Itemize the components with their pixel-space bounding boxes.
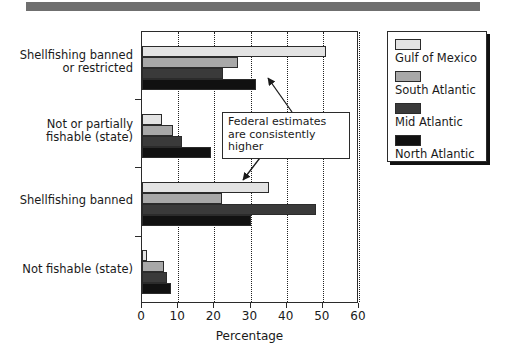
legend-item-south-atlantic[interactable]: South Atlantic: [395, 71, 483, 97]
category-label-line: fishable (state): [0, 131, 133, 144]
bar-not-or-partially-fishable-state-mid-atlantic: [142, 136, 182, 147]
gridline: [287, 32, 288, 302]
legend-item-mid-atlantic[interactable]: Mid Atlantic: [395, 103, 483, 129]
gridline: [359, 32, 360, 302]
bar-shellfishing-banned-north-atlantic: [142, 215, 251, 226]
gridline: [323, 32, 324, 302]
category-label-not-fishable-state: Not fishable (state): [0, 263, 133, 276]
x-axis-tick: [213, 303, 214, 308]
gridline: [251, 32, 252, 302]
bar-shellfishing-banned-south-atlantic: [142, 193, 222, 204]
legend-label: Gulf of Mexico: [395, 51, 483, 65]
bar-shellfishing-banned-or-restricted-gulf-of-mexico: [142, 46, 326, 57]
x-axis-title: Percentage: [141, 329, 358, 343]
x-axis-tick: [177, 303, 178, 308]
x-axis-tick: [358, 303, 359, 308]
x-axis-tick-label: 30: [230, 309, 270, 323]
legend-label: South Atlantic: [395, 83, 483, 97]
annotation-callout: Federal estimates are consistently highe…: [222, 112, 350, 159]
bar-not-or-partially-fishable-state-south-atlantic: [142, 125, 173, 136]
bar-shellfishing-banned-gulf-of-mexico: [142, 182, 269, 193]
plot-inner: [142, 32, 357, 302]
swatch-gulf-of-mexico-icon: [395, 39, 421, 50]
x-axis-tick-label: 0: [121, 309, 161, 323]
legend-label: Mid Atlantic: [395, 115, 483, 129]
legend-label: North Atlantic: [395, 147, 483, 161]
bar-shellfishing-banned-or-restricted-mid-atlantic: [142, 68, 223, 79]
bar-not-or-partially-fishable-state-gulf-of-mexico: [142, 114, 162, 125]
annotation-line-1: Federal estimates: [228, 116, 344, 129]
category-label-line: or restricted: [0, 62, 133, 75]
bar-not-fishable-state-south-atlantic: [142, 261, 164, 272]
bar-not-or-partially-fishable-state-north-atlantic: [142, 147, 211, 158]
bar-not-fishable-state-gulf-of-mexico: [142, 250, 147, 261]
legend-item-north-atlantic[interactable]: North Atlantic: [395, 135, 483, 161]
bar-shellfishing-banned-or-restricted-south-atlantic: [142, 57, 238, 68]
bar-shellfishing-banned-mid-atlantic: [142, 204, 316, 215]
x-axis-tick-label: 10: [157, 309, 197, 323]
bar-not-fishable-state-mid-atlantic: [142, 272, 167, 283]
x-axis-tick-label: 20: [193, 309, 233, 323]
annotation-line-2: are consistently higher: [228, 129, 344, 154]
category-label-line: Shellfishing banned: [0, 194, 133, 207]
bar-shellfishing-banned-or-restricted-north-atlantic: [142, 79, 256, 90]
category-label-not-or-partially-fishable-state: Not or partially fishable (state): [0, 118, 133, 144]
swatch-south-atlantic-icon: [395, 71, 421, 82]
bar-chart-figure: Shellfishing banned or restricted Not or…: [0, 0, 505, 361]
bar-not-fishable-state-north-atlantic: [142, 283, 171, 294]
swatch-mid-atlantic-icon: [395, 103, 421, 114]
x-axis-tick-label: 50: [302, 309, 342, 323]
category-label-shellfishing-banned-or-restricted: Shellfishing banned or restricted: [0, 49, 133, 75]
category-label-line: Not fishable (state): [0, 263, 133, 276]
chart-legend: Gulf of Mexico South Atlantic Mid Atlant…: [387, 31, 487, 162]
legend-item-gulf-of-mexico[interactable]: Gulf of Mexico: [395, 39, 483, 65]
x-axis-tick: [141, 303, 142, 308]
x-axis-tick: [286, 303, 287, 308]
category-label-shellfishing-banned: Shellfishing banned: [0, 194, 133, 207]
x-axis-tick: [250, 303, 251, 308]
plot-area: [141, 31, 358, 303]
x-axis-tick-label: 60: [338, 309, 378, 323]
x-axis-tick: [322, 303, 323, 308]
x-axis-tick-label: 40: [266, 309, 306, 323]
swatch-north-atlantic-icon: [395, 135, 421, 146]
